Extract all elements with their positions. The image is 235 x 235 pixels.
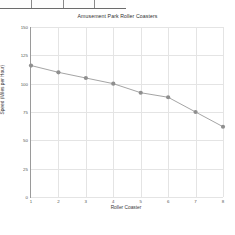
y-tick-label: 25 — [23, 166, 28, 171]
x-tick-label: 5 — [139, 199, 141, 204]
data-point — [166, 95, 170, 99]
toolbar-cell[interactable] — [64, 0, 96, 8]
chart-title: Amusement Park Roller Coasters — [0, 13, 235, 19]
y-tick-label: 50 — [23, 138, 28, 143]
line-chart: Amusement Park Roller Coasters Speed (Mi… — [0, 9, 235, 235]
x-tick-label: 1 — [30, 199, 32, 204]
toolbar-cell[interactable] — [0, 0, 32, 8]
y-tick-label: 125 — [21, 53, 28, 58]
y-tick-label: 0 — [26, 195, 28, 200]
gridline-horizontal — [31, 197, 223, 198]
x-axis-title: Roller Coaster — [30, 205, 222, 210]
data-point — [84, 76, 88, 80]
data-point — [29, 63, 33, 67]
data-point — [111, 82, 115, 86]
x-tick-label: 6 — [167, 199, 169, 204]
top-toolbar[interactable] — [0, 0, 126, 9]
data-point — [193, 110, 197, 114]
gridline-vertical — [223, 27, 224, 197]
plot-area: 0255075100125150 12345678 — [30, 27, 223, 198]
x-tick-label: 2 — [57, 199, 59, 204]
y-axis-title: Speed (Miles per Hour) — [0, 65, 5, 115]
data-series — [31, 27, 223, 197]
x-tick-label: 7 — [194, 199, 196, 204]
y-tick-label: 150 — [21, 25, 28, 30]
y-tick-label: 100 — [21, 81, 28, 86]
series-line — [31, 66, 223, 127]
toolbar-cell[interactable] — [32, 0, 64, 8]
x-tick-label: 8 — [222, 199, 224, 204]
series-points — [29, 63, 225, 128]
data-point — [221, 125, 225, 129]
data-point — [56, 70, 60, 74]
x-tick-label: 4 — [112, 199, 114, 204]
x-tick-label: 3 — [85, 199, 87, 204]
toolbar-cell[interactable] — [95, 0, 126, 8]
y-tick-label: 75 — [23, 110, 28, 115]
data-point — [139, 91, 143, 95]
